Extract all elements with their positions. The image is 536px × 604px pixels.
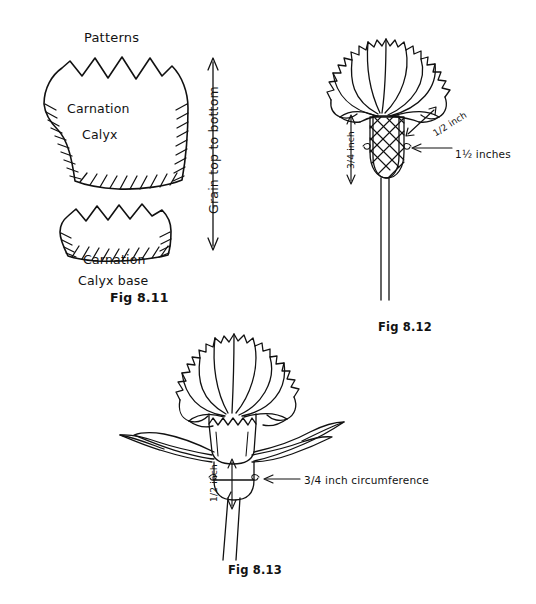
measurement-one-and-half-inches: 1½ inches (455, 148, 511, 160)
figure-caption-811: Fig 8.11 (110, 290, 169, 305)
dimension-one-and-half-inches (412, 144, 452, 152)
measurement-three-quarter-inch: 3/4 inch (346, 131, 356, 169)
line-art-layer (0, 0, 536, 604)
figure-caption-813: Fig 8.13 (228, 563, 282, 577)
fig-813-drawing (120, 334, 344, 560)
illustration-page: Patterns Carnation Calyx Carnation Calyx… (0, 0, 536, 604)
calyx-pattern-label-line1: Carnation (67, 101, 130, 116)
hatch-base-right (159, 232, 171, 257)
fig-812-drawing (327, 39, 452, 300)
pattern-carnation-calyx (44, 57, 188, 189)
dimension-circumference-leader (264, 475, 300, 483)
hatch-right (173, 104, 188, 181)
patterns-heading: Patterns (84, 30, 139, 45)
dimension-half-inch-813 (228, 459, 236, 509)
calyx-shade-hatch (216, 432, 248, 456)
calyx-pattern-label-line2: Calyx (82, 127, 118, 142)
measurement-circumference: 3/4 inch circumference (304, 474, 429, 486)
calyx-base-pattern-label-line1: Carnation (83, 252, 146, 267)
calyx-base-pattern-label-line2: Calyx base (78, 273, 148, 288)
figure-caption-812: Fig 8.12 (378, 320, 432, 334)
grain-direction-label: Grain top to bottom (206, 86, 221, 214)
measurement-half-inch-813: 1/2 inch (209, 464, 219, 502)
